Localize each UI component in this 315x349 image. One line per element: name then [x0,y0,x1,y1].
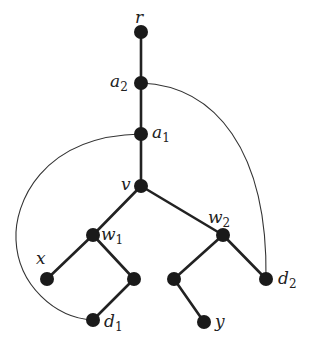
edge-w2-d2 [223,235,266,279]
tree-nodes [40,25,273,329]
node-n1 [127,272,141,286]
label-d2: d2 [278,268,297,291]
label-d1: d1 [104,311,123,334]
label-v: v [121,174,131,194]
node-r [134,25,148,39]
edge-n2-y [174,279,204,322]
label-x: x [36,248,46,268]
label-r: r [135,7,144,27]
node-w1 [86,228,100,242]
edge-w1-x [47,235,93,279]
edge-w2-n2 [174,235,223,279]
node-x [40,272,54,286]
node-d2 [259,272,273,286]
tree-diagram: r a2 a1 v w1 w2 x d1 d2 y [0,0,315,349]
label-y: y [214,311,225,331]
label-w1: w1 [101,224,123,247]
label-a1: a1 [152,122,170,145]
node-labels: r a2 a1 v w1 w2 x d1 d2 y [36,7,297,334]
node-a2 [134,76,148,90]
tree-edges [47,32,266,322]
node-w2 [216,228,230,242]
node-d1 [86,313,100,327]
back-edge-a2-d2 [141,83,266,279]
label-w2: w2 [208,207,230,230]
node-n2 [167,272,181,286]
node-y [197,315,211,329]
label-a2: a2 [110,71,128,94]
node-v [134,179,148,193]
node-a1 [134,127,148,141]
